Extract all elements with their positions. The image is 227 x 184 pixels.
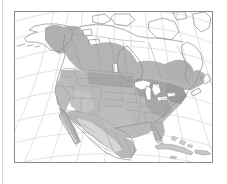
left-margin-rule [2, 0, 3, 184]
map-canvas [15, 12, 212, 162]
lake-winnipeg [113, 63, 118, 73]
figure-page [0, 0, 227, 184]
lake-ontario [167, 92, 176, 97]
map-frame [14, 11, 213, 163]
lake-great-slave [89, 39, 100, 45]
